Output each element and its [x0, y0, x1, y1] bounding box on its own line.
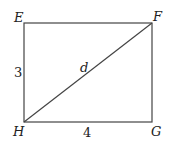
side-label-left: 3 [14, 65, 22, 80]
rectangle-diagram: E F G H 3 4 d [0, 0, 171, 143]
diagonal-label: d [80, 60, 88, 75]
side-label-bottom: 4 [83, 125, 91, 140]
vertex-label-h: H [12, 124, 25, 139]
vertex-label-f: F [152, 9, 163, 24]
vertex-label-g: G [151, 124, 161, 139]
vertex-label-e: E [13, 10, 24, 25]
